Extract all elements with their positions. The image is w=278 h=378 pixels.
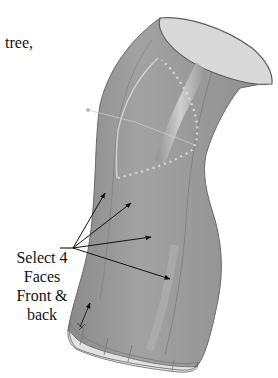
callout-label: Select 4 Faces Front & back: [4, 248, 80, 324]
callout-line-2: Faces: [4, 267, 80, 286]
callout-line-3: Front &: [4, 286, 80, 305]
caption-fragment: tree,: [5, 33, 33, 52]
callout-line-1: Select 4: [4, 248, 80, 267]
callout-line-4: back: [4, 305, 80, 324]
